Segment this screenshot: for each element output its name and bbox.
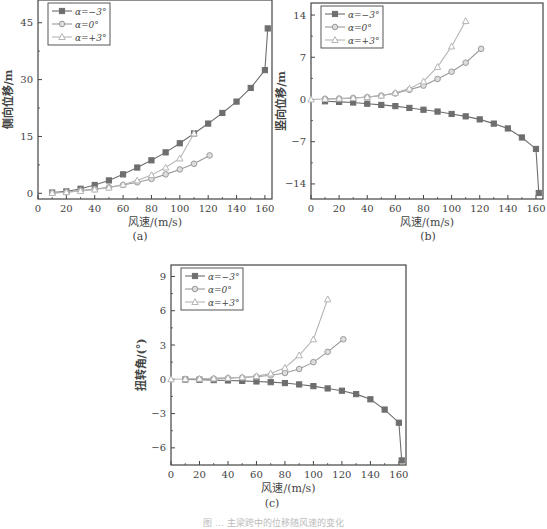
caption-c: (c) xyxy=(222,497,322,510)
legend-entry: α=−3° xyxy=(75,7,106,17)
square-marker-icon xyxy=(365,101,370,106)
square-marker-icon xyxy=(149,158,154,163)
square-marker-icon xyxy=(491,121,496,126)
x-tick-label: 0 xyxy=(35,203,41,214)
x-tick-label: 20 xyxy=(60,203,73,214)
legend-entry: α=−3° xyxy=(348,10,379,20)
circle-marker-icon xyxy=(59,21,65,27)
x-tick-label: 40 xyxy=(361,203,374,214)
circle-marker-icon xyxy=(191,161,197,167)
square-marker-icon xyxy=(265,26,270,31)
y-tick-label: 3 xyxy=(160,340,166,351)
triangle-marker-icon xyxy=(177,155,183,161)
square-marker-icon xyxy=(396,420,401,425)
y-tick-label: −6 xyxy=(151,442,166,453)
square-marker-icon xyxy=(407,105,412,110)
square-marker-icon xyxy=(325,386,330,391)
y-tick-label: 14 xyxy=(293,10,306,21)
legend-entry: α=+3° xyxy=(208,298,239,308)
x-tick-label: 0 xyxy=(168,469,174,480)
circle-marker-icon xyxy=(332,24,338,30)
series-0 xyxy=(322,99,541,196)
square-marker-icon xyxy=(59,8,64,13)
circle-marker-icon xyxy=(177,167,183,173)
circle-marker-icon xyxy=(478,46,484,52)
circle-marker-icon xyxy=(192,286,198,292)
x-tick-label: 60 xyxy=(117,203,130,214)
square-marker-icon xyxy=(519,135,524,140)
square-marker-icon xyxy=(206,121,211,126)
y-tick-label: 0 xyxy=(160,374,166,385)
legend-entry: α=0° xyxy=(348,23,372,33)
legend-entry: α=+3° xyxy=(75,33,106,43)
chart-b: 020406080100120140160−14−70714风速/(m/s)竖向… xyxy=(274,3,546,229)
x-tick-label: 160 xyxy=(389,469,408,480)
square-marker-icon xyxy=(163,150,168,155)
x-tick-label: 20 xyxy=(333,203,346,214)
circle-marker-icon xyxy=(449,69,455,75)
square-marker-icon xyxy=(268,380,273,385)
circle-marker-icon xyxy=(282,370,288,376)
x-tick-label: 80 xyxy=(279,469,292,480)
y-axis-label: 扭转角/(°) xyxy=(134,339,148,392)
x-tick-label: 120 xyxy=(332,469,351,480)
square-marker-icon xyxy=(421,107,426,112)
x-tick-label: 160 xyxy=(526,203,545,214)
square-marker-icon xyxy=(262,68,267,73)
square-marker-icon xyxy=(135,165,140,170)
circle-marker-icon xyxy=(311,359,317,365)
legend-entry: α=0° xyxy=(208,285,232,295)
square-marker-icon xyxy=(354,392,359,397)
x-tick-label: 60 xyxy=(250,469,263,480)
square-marker-icon xyxy=(368,397,373,402)
x-tick-label: 140 xyxy=(227,203,246,214)
x-axis-label: 风速/(m/s) xyxy=(261,482,315,495)
legend: α=−3°α=0°α=+3° xyxy=(48,3,110,45)
circle-marker-icon xyxy=(463,60,469,66)
legend: α=−3°α=0°α=+3° xyxy=(321,6,383,48)
x-tick-label: 100 xyxy=(304,469,323,480)
square-marker-icon xyxy=(435,109,440,114)
circle-marker-icon xyxy=(207,153,213,159)
x-tick-label: 100 xyxy=(442,203,461,214)
x-tick-label: 120 xyxy=(470,203,489,214)
triangle-marker-icon xyxy=(148,172,154,178)
x-tick-label: 140 xyxy=(361,469,380,480)
square-marker-icon xyxy=(177,141,182,146)
square-marker-icon xyxy=(393,104,398,109)
circle-marker-icon xyxy=(341,336,347,342)
series-2 xyxy=(49,130,197,195)
y-tick-label: 30 xyxy=(20,74,33,85)
y-tick-label: 15 xyxy=(20,131,33,142)
square-marker-icon xyxy=(234,99,239,104)
square-marker-icon xyxy=(120,172,125,177)
y-tick-label: 0 xyxy=(300,94,306,105)
square-marker-icon xyxy=(477,117,482,122)
square-marker-icon xyxy=(248,85,253,90)
square-marker-icon xyxy=(332,11,337,16)
caption-a: (a) xyxy=(90,230,190,243)
x-tick-label: 160 xyxy=(255,203,274,214)
y-tick-label: 9 xyxy=(160,271,166,282)
square-marker-icon xyxy=(449,111,454,116)
y-tick-label: 0 xyxy=(27,188,33,199)
chart-c: 020406080100120140160−6−30369风速/(m/s)扭转角… xyxy=(134,265,408,495)
legend: α=−3°α=0°α=+3° xyxy=(181,268,243,310)
square-marker-icon xyxy=(106,178,111,183)
square-marker-icon xyxy=(192,273,197,278)
square-marker-icon xyxy=(536,190,541,195)
square-marker-icon xyxy=(282,380,287,385)
square-marker-icon xyxy=(379,102,384,107)
triangle-marker-icon xyxy=(310,336,316,342)
figure-caption: 图 … 主梁跨中的位移随风速的变化 xyxy=(0,516,547,529)
square-marker-icon xyxy=(382,407,387,412)
series-0 xyxy=(50,26,271,195)
caption-b: (b) xyxy=(378,230,478,243)
circle-marker-icon xyxy=(325,349,331,355)
x-tick-label: 40 xyxy=(222,469,235,480)
square-marker-icon xyxy=(311,384,316,389)
y-tick-label: 7 xyxy=(300,52,306,63)
x-axis-label: 风速/(m/s) xyxy=(400,216,454,229)
y-axis-label: 侧向位移/m xyxy=(1,69,15,129)
